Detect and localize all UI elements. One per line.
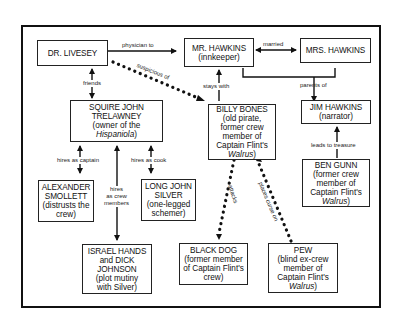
node-black-dog: BLACK DOG (former member of Captain Flin… [179, 243, 248, 285]
label-friends: friends [83, 80, 101, 87]
node-mrs-hawkins: MRS. HAWKINS [300, 38, 371, 63]
node-jim-hawkins: JIM HAWKINS (narrator) [301, 100, 371, 124]
node-desc: (blind ex-crew member of Captain Flint's… [272, 255, 334, 291]
node-name: BLACK DOG [190, 246, 237, 255]
node-dr-livesey: DR. LIVESEY [37, 40, 108, 66]
node-name: BILLY BONES [216, 105, 267, 114]
node-name: PEW [294, 246, 312, 255]
node-desc: (old pirate, former crew member of Capta… [211, 114, 273, 159]
label-stays-with: stays with [203, 83, 229, 90]
edge-suspicious-of [113, 62, 198, 98]
node-billy-bones: BILLY BONES (old pirate, former crew mem… [208, 104, 276, 160]
node-desc: (former crew member of Captain Flint's W… [305, 170, 367, 206]
node-desc: (former member of Captain Flint's crew) [182, 255, 246, 282]
node-ben-gunn: BEN GUNN (former crew member of Captain … [302, 159, 370, 207]
node-desc: (innkeeper) [198, 53, 239, 62]
label-hires-as-cook: hires as cook [131, 157, 166, 164]
label-leads-to-treasure: leads to treasure [311, 142, 356, 149]
node-name: MRS. HAWKINS [306, 46, 365, 55]
node-desc: (one-legged schemer) [144, 200, 194, 218]
node-name: ALEXANDER SMOLLETT [41, 183, 91, 201]
node-long-john-silver: LONG JOHN SILVER (one-legged schemer) [141, 179, 196, 221]
node-name: BEN GUNN [315, 161, 357, 170]
node-name: LONG JOHN SILVER [144, 182, 194, 200]
node-squire-trelawney: SQUIRE JOHN TRELAWNEY (owner of the Hisp… [70, 100, 163, 142]
node-desc: (plot mutiny with Silver) [89, 274, 145, 292]
label-parents-of: parents of [300, 82, 327, 89]
node-desc: (owner of the Hispaniola) [93, 121, 141, 139]
edge-parents-of [243, 68, 335, 77]
node-desc: (distrusts the crew) [41, 201, 91, 219]
node-pew: PEW (blind ex-crew member of Captain Fli… [268, 243, 338, 293]
node-name: DR. LIVESEY [48, 49, 97, 58]
label-hires-as-crew: hires as crew members [104, 186, 129, 207]
label-physician-to: physician to [122, 42, 154, 49]
node-name: MR. HAWKINS [192, 44, 246, 53]
label-married: married [263, 41, 283, 48]
label-hires-as-captain: hires as captain [57, 157, 99, 164]
node-desc: (narrator) [319, 112, 353, 121]
node-name: ISRAEL HANDS and DICK JOHNSON [85, 247, 149, 274]
node-name: SQUIRE JOHN TRELAWNEY [82, 103, 152, 121]
node-name: JIM HAWKINS [310, 103, 362, 112]
node-alexander-smollett: ALEXANDER SMOLLETT (distrusts the crew) [38, 180, 94, 222]
node-mr-hawkins: MR. HAWKINS (innkeeper) [184, 38, 254, 67]
node-hands-johnson: ISRAEL HANDS and DICK JOHNSON (plot muti… [82, 244, 152, 294]
